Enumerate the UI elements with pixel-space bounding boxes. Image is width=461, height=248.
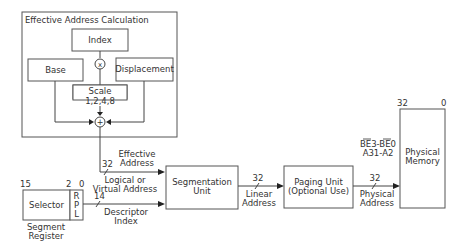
paging-unit-label-2: (Optional Use) <box>288 186 349 196</box>
descriptor-label-2: Index <box>114 216 137 226</box>
bus-signals-address: A31-A2 <box>363 148 394 158</box>
physical-memory-label-2: Memory <box>405 156 440 166</box>
memory-bit-0: 0 <box>441 98 446 108</box>
segment-register-caption-2: Register <box>29 231 65 241</box>
add-symbol: + <box>97 118 104 127</box>
ea-label-2: Address <box>120 158 154 168</box>
multiply-symbol: x <box>98 61 102 69</box>
selector-label: Selector <box>29 200 64 210</box>
linear-width: 32 <box>253 173 264 183</box>
scale-label: Scale <box>89 86 112 96</box>
base-label: Base <box>45 65 66 75</box>
segmentation-unit-label-2: Unit <box>193 186 211 196</box>
displacement-label: Displacement <box>115 64 174 74</box>
scale-values: 1,2,4,8 <box>85 96 115 106</box>
memory-bit-32: 32 <box>397 98 408 108</box>
descriptor-width: 14 <box>94 191 105 201</box>
physical-label-2: Address <box>360 198 394 208</box>
address-translation-diagram: Effective Address Calculation Index x Ba… <box>0 0 461 248</box>
selector-bit-0: 0 <box>79 179 84 189</box>
rpl-l: L <box>74 209 79 219</box>
ea-calc-title: Effective Address Calculation <box>25 15 149 25</box>
selector-bit-2: 2 <box>66 179 71 189</box>
ea-width: 32 <box>102 159 113 169</box>
index-label: Index <box>88 35 111 45</box>
selector-bit-15: 15 <box>20 179 31 189</box>
linear-label-2: Address <box>242 198 276 208</box>
physical-width: 32 <box>370 173 381 183</box>
